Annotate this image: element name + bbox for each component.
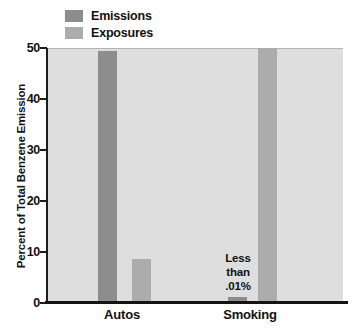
legend-label-exposures: Exposures — [91, 26, 153, 40]
y-tick-label: 40 — [12, 91, 40, 107]
annotation-line: .01% — [206, 279, 270, 293]
y-axis-title: Percent of Total Benzene Emission — [15, 84, 27, 268]
y-tick-label: 50 — [12, 40, 40, 56]
legend-item-emissions: Emissions — [65, 8, 153, 23]
benzene-bar-chart: Emissions Exposures Percent of Total Ben… — [0, 0, 352, 336]
y-axis-line — [46, 48, 48, 304]
y-tick-label: 10 — [12, 244, 40, 260]
y-tick-label: 30 — [12, 142, 40, 158]
less-than-annotation: Less than .01% — [206, 251, 270, 293]
x-category-label-autos: Autos — [80, 307, 164, 322]
x-axis-line — [45, 301, 348, 304]
y-tick-label: 20 — [12, 193, 40, 209]
exposures-swatch-icon — [65, 27, 83, 39]
x-category-label-smoking: Smoking — [208, 307, 292, 322]
annotation-line: Less — [206, 251, 270, 265]
legend-item-exposures: Exposures — [65, 25, 153, 40]
emissions-swatch-icon — [65, 10, 83, 22]
annotation-line: than — [206, 265, 270, 279]
legend: Emissions Exposures — [65, 8, 153, 42]
bar-autos-emissions — [98, 51, 117, 303]
plot-area — [47, 48, 343, 303]
legend-label-emissions: Emissions — [91, 9, 152, 23]
bar-autos-exposures — [132, 259, 151, 303]
y-tick-label: 0 — [12, 295, 40, 311]
